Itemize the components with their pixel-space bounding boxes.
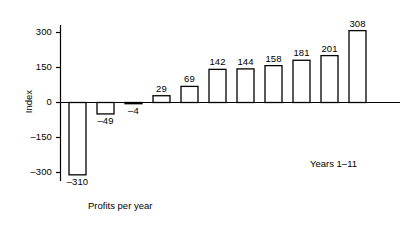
bar (349, 31, 366, 103)
y-tick-label-neg300: –300 (18, 167, 52, 177)
years-annotation: Years 1–11 (310, 158, 357, 169)
bar (293, 60, 310, 102)
bar (69, 103, 86, 175)
y-tick-label-neg150: –150 (18, 132, 52, 142)
bar-value-label: –310 (57, 177, 98, 187)
y-tick-label-300: 300 (22, 27, 52, 37)
bar-value-label: –4 (113, 106, 154, 116)
bar-value-label: 308 (337, 19, 378, 29)
chart-canvas (0, 0, 407, 234)
y-tick-label-150: 150 (22, 62, 52, 72)
bar (97, 103, 114, 114)
y-axis-title: Index (23, 80, 34, 124)
bar-value-label: –49 (85, 116, 126, 126)
bar (125, 103, 142, 104)
bar (265, 66, 282, 103)
bar (237, 69, 254, 103)
y-axis-ticks (56, 33, 61, 173)
bar-value-label: 29 (141, 84, 182, 94)
bar (321, 56, 338, 103)
bar-value-label: 201 (309, 44, 350, 54)
bar (181, 86, 198, 102)
bar-value-label: 69 (169, 74, 210, 84)
bar-chart-figure: 300 150 0 –150 –300 Index Profits per ye… (0, 0, 407, 234)
x-axis-title: Profits per year (88, 200, 152, 211)
bar (153, 96, 170, 103)
bar (209, 69, 226, 102)
